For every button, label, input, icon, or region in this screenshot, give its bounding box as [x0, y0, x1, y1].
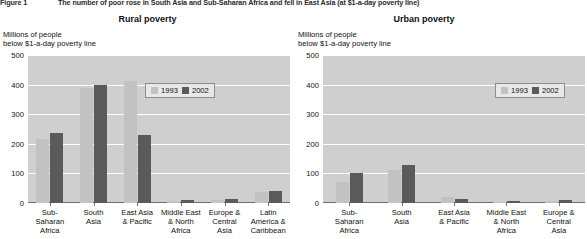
y-axis-label-rural: Millions of people below $1-a-day povert… [3, 30, 96, 49]
y-tick-400: 400 [4, 81, 24, 90]
x-axis-label-line: Saharan [25, 217, 75, 226]
x-axis-label-2: East Asia& Pacific [112, 208, 162, 226]
bar-1993-1 [80, 88, 93, 203]
legend-swatch-2002 [532, 87, 539, 94]
legend-urban[interactable]: 19932002 [495, 83, 565, 98]
bar-1993-3 [493, 202, 506, 203]
bar-2002-2 [455, 199, 468, 203]
gridline-300 [28, 114, 290, 115]
gridline-200 [28, 144, 290, 145]
bar-2002-4 [225, 199, 238, 203]
x-axis-label-line: Europe & [200, 208, 250, 217]
y-tick-0: 0 [299, 199, 319, 208]
y-tick-100: 100 [4, 169, 24, 178]
x-axis-label-4: Europe &CentralAsia [200, 208, 250, 236]
x-axis-label-line: Europe & [530, 208, 587, 217]
chart-title-rural: Rural poverty [0, 14, 295, 24]
x-axis-label-line: Caribbean [243, 226, 293, 235]
x-axis-label-line: Asia [69, 217, 119, 226]
figure-number: Figure 1 [0, 0, 58, 7]
bar-2002-0 [350, 173, 363, 203]
x-tick-1 [402, 203, 403, 206]
x-tick-4 [559, 203, 560, 206]
legend-swatch-2002 [182, 87, 189, 94]
x-axis-label-line: Saharan [320, 217, 378, 226]
x-axis-label-3: Middle East& NorthAfrica [477, 208, 535, 236]
x-axis-label-line: Asia [200, 226, 250, 235]
bar-2002-4 [559, 200, 572, 203]
x-tick-0 [349, 203, 350, 206]
x-axis-label-0: Sub-SaharanAfrica [25, 208, 75, 236]
bar-1993-1 [388, 170, 401, 203]
bar-2002-0 [50, 133, 63, 203]
x-axis-label-line: South [372, 208, 430, 217]
bar-1993-4 [211, 200, 224, 203]
x-axis-label-line: Africa [156, 226, 206, 235]
y-tick-400: 400 [299, 81, 319, 90]
x-tick-3 [181, 203, 182, 206]
gridline-300 [323, 114, 585, 115]
bar-2002-3 [181, 200, 194, 203]
axis-baseline [28, 202, 290, 203]
gridline-100 [28, 173, 290, 174]
x-axis-label-line: Central [200, 217, 250, 226]
bar-1993-4 [545, 201, 558, 203]
x-axis-label-line: Sub- [320, 208, 378, 217]
x-axis-label-1: SouthAsia [372, 208, 430, 226]
chart-panel-urban: Urban poverty Millions of people below $… [295, 11, 587, 239]
y-tick-0: 0 [4, 199, 24, 208]
y-tick-200: 200 [4, 140, 24, 149]
x-axis-label-line: Africa [320, 226, 378, 235]
bar-2002-5 [269, 191, 282, 203]
legend-item-2002[interactable]: 2002 [532, 86, 559, 95]
legend-item-2002[interactable]: 2002 [182, 86, 209, 95]
x-axis-label-3: Middle East& NorthAfrica [156, 208, 206, 236]
bar-2002-1 [402, 165, 415, 203]
legend-label-2002: 2002 [192, 86, 209, 95]
bar-1993-5 [255, 192, 268, 203]
chart-title-urban: Urban poverty [295, 14, 553, 24]
plot-area-rural [28, 55, 290, 203]
legend-item-1993[interactable]: 1993 [501, 86, 528, 95]
bar-1993-2 [124, 81, 137, 203]
x-axis-label-0: Sub-SaharanAfrica [320, 208, 378, 236]
bar-2002-3 [507, 201, 520, 203]
x-tick-0 [50, 203, 51, 206]
x-tick-4 [225, 203, 226, 206]
x-axis-label-line: Africa [25, 226, 75, 235]
bar-1993-2 [441, 197, 454, 204]
x-axis-label-line: Africa [477, 226, 535, 235]
x-axis-label-line: Central [530, 217, 587, 226]
bar-1993-3 [167, 201, 180, 203]
x-axis-label-line: East Asia [112, 208, 162, 217]
y-axis-label-urban: Millions of people below $1-a-day povert… [298, 30, 391, 49]
x-axis-label-5: LatinAmerica &Caribbean [243, 208, 293, 236]
x-tick-3 [506, 203, 507, 206]
chart-panel-rural: Rural poverty Millions of people below $… [0, 11, 295, 239]
x-axis-label-line: South [69, 208, 119, 217]
figure-caption-text: The number of poor rose in South Asia an… [58, 0, 419, 7]
legend-rural[interactable]: 19932002 [145, 83, 215, 98]
x-axis-label-4: Europe &CentralAsia [530, 208, 587, 236]
x-axis-label-1: SouthAsia [69, 208, 119, 226]
x-tick-5 [268, 203, 269, 206]
x-tick-2 [137, 203, 138, 206]
legend-item-1993[interactable]: 1993 [151, 86, 178, 95]
x-axis-label-line: Sub- [25, 208, 75, 217]
y-tick-500: 500 [299, 51, 319, 60]
legend-label-1993: 1993 [511, 86, 528, 95]
x-axis-label-line: East Asia [425, 208, 483, 217]
x-tick-1 [94, 203, 95, 206]
legend-label-2002: 2002 [542, 86, 559, 95]
x-axis-label-line: Middle East [477, 208, 535, 217]
x-axis-label-2: East Asia& Pacific [425, 208, 483, 226]
bar-1993-0 [36, 139, 49, 203]
x-axis-label-line: & North [477, 217, 535, 226]
y-axis-label-line2: below $1-a-day poverty line [298, 39, 391, 48]
y-tick-500: 500 [4, 51, 24, 60]
legend-swatch-1993 [151, 87, 158, 94]
charts-container: Rural poverty Millions of people below $… [0, 11, 587, 239]
gridline-500 [28, 55, 290, 56]
bar-1993-0 [336, 182, 349, 203]
figure-caption: Figure 1The number of poor rose in South… [0, 0, 587, 9]
